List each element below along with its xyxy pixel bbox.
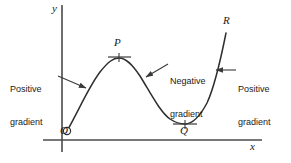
annotation-line-1: Positive	[10, 84, 43, 95]
point-label-p: P	[114, 36, 121, 48]
annotation-positive-gradient-left: Positive gradient	[10, 62, 43, 150]
y-axis-label: y	[52, 2, 57, 14]
annotation-line-2: gradient	[170, 109, 206, 120]
annotation-positive-gradient-right: Positive gradient	[238, 62, 271, 150]
point-label-o: O	[60, 124, 68, 136]
annotation-line-1: Negative	[170, 76, 206, 87]
annotation-line-1: Positive	[238, 84, 271, 95]
point-label-r: R	[223, 14, 230, 26]
leader-arrow-negative-middle	[146, 64, 168, 77]
annotation-line-2: gradient	[10, 117, 43, 128]
gradient-curve-figure: y x O P Q R Positive gradient Negative g…	[0, 0, 291, 163]
annotation-line-2: gradient	[238, 117, 271, 128]
annotation-negative-gradient-middle: Negative gradient	[170, 54, 206, 142]
